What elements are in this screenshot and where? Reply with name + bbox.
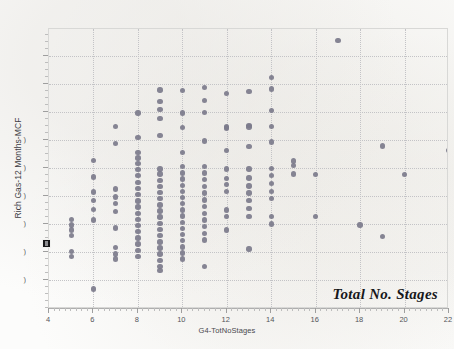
x-tick-minor <box>198 308 199 311</box>
x-tick-label: 8 <box>135 315 139 324</box>
data-point <box>180 220 185 225</box>
data-point <box>180 183 185 188</box>
data-point <box>157 258 162 263</box>
data-point <box>91 207 96 212</box>
x-tick-minor <box>292 308 293 311</box>
x-tick-label: 10 <box>177 315 185 324</box>
x-tick-label: 18 <box>355 315 363 324</box>
data-point <box>180 110 185 115</box>
data-point <box>269 189 274 194</box>
data-point <box>202 177 207 182</box>
x-tick-minor <box>415 308 416 311</box>
data-point <box>202 98 207 103</box>
x-tick-minor <box>154 308 155 311</box>
data-point <box>135 198 140 203</box>
x-tick-minor <box>142 308 143 311</box>
data-point <box>157 196 162 201</box>
data-point <box>180 195 185 200</box>
data-point <box>202 264 207 269</box>
y-tick-label: ( <box>2 218 26 227</box>
data-point <box>246 144 251 149</box>
x-tick-minor <box>209 308 210 311</box>
data-point <box>202 138 207 143</box>
data-point <box>313 214 318 219</box>
x-tick-minor <box>354 308 355 311</box>
x-tick-minor <box>265 308 266 311</box>
data-point <box>269 221 274 226</box>
data-point <box>246 246 251 251</box>
data-point <box>113 124 118 129</box>
data-point <box>246 198 251 203</box>
data-point <box>180 176 185 181</box>
data-point <box>269 139 274 144</box>
data-point <box>180 201 185 206</box>
data-point <box>202 217 207 222</box>
data-point <box>224 214 229 219</box>
data-point <box>269 86 274 91</box>
x-tick-minor <box>337 308 338 311</box>
data-point <box>135 155 140 160</box>
data-point <box>91 198 96 203</box>
x-tick-minor <box>76 308 77 311</box>
data-point <box>180 88 185 93</box>
x-axis-title: G4-TotNoStages <box>0 326 454 335</box>
data-point <box>91 158 96 163</box>
data-point <box>135 229 140 234</box>
data-point <box>202 204 207 209</box>
data-point <box>69 217 74 222</box>
x-tick-minor <box>165 308 166 311</box>
x-tick-major <box>270 308 271 313</box>
data-point <box>246 206 251 211</box>
data-point <box>157 87 162 92</box>
x-tick-minor <box>437 308 438 311</box>
x-tick-minor <box>248 308 249 311</box>
data-point <box>224 189 229 194</box>
data-point <box>91 217 96 222</box>
x-tick-minor <box>387 308 388 311</box>
x-tick-label: 22 <box>444 315 452 324</box>
x-tick-minor <box>109 308 110 311</box>
y-tick-label: ( <box>2 246 26 255</box>
data-point <box>157 208 162 213</box>
x-tick-minor <box>131 308 132 311</box>
data-point <box>202 231 207 236</box>
data-point <box>157 239 162 244</box>
data-point <box>180 189 185 194</box>
data-point <box>113 209 118 214</box>
data-point <box>202 164 207 169</box>
data-point <box>180 238 185 243</box>
y-tick-label: ( <box>2 134 26 143</box>
data-point <box>157 202 162 207</box>
data-point <box>135 204 140 209</box>
data-point <box>113 225 118 230</box>
x-tick-minor <box>242 308 243 311</box>
x-tick-minor <box>259 308 260 311</box>
x-tick-minor <box>187 308 188 311</box>
data-point <box>246 214 251 219</box>
data-point <box>135 241 140 246</box>
x-tick-minor <box>115 308 116 311</box>
data-point <box>135 223 140 228</box>
x-tick-major <box>92 308 93 313</box>
data-point <box>246 190 251 195</box>
x-tick-minor <box>276 308 277 311</box>
data-point <box>135 173 140 178</box>
x-tick-minor <box>376 308 377 311</box>
x-tick-minor <box>370 308 371 311</box>
x-tick-minor <box>70 308 71 311</box>
y-axis-selection-handle[interactable] <box>42 239 51 248</box>
data-point <box>380 143 385 148</box>
data-point <box>157 171 162 176</box>
data-point <box>246 175 251 180</box>
x-tick-major <box>226 308 227 313</box>
data-point <box>180 125 185 130</box>
data-point <box>69 227 74 232</box>
gridline-horizontal <box>49 280 447 281</box>
data-point <box>157 116 162 121</box>
data-point <box>246 183 251 188</box>
data-point <box>357 222 362 227</box>
x-tick-minor <box>231 308 232 311</box>
data-point <box>113 256 118 261</box>
x-tick-minor <box>126 308 127 311</box>
chart-annotation: Total No. Stages <box>332 286 438 303</box>
